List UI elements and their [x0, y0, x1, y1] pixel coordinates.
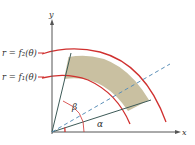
beta-ray [52, 53, 71, 132]
beta-label: β [71, 102, 77, 112]
x-axis-label: x [182, 128, 187, 137]
x-axis-arrow-icon [175, 130, 181, 134]
y-axis-label: y [48, 10, 54, 19]
alpha-label: α [97, 119, 103, 129]
inner-curve-label: r = f₁(θ) [2, 72, 37, 82]
polar-region-diagram: y x r = f₂(θ) r = f₁(θ) β α [0, 0, 195, 145]
outer-curve-label: r = f₂(θ) [2, 48, 37, 58]
y-axis-arrow-icon [50, 19, 54, 25]
diagram-canvas: y x r = f₂(θ) r = f₁(θ) β α [0, 0, 195, 145]
